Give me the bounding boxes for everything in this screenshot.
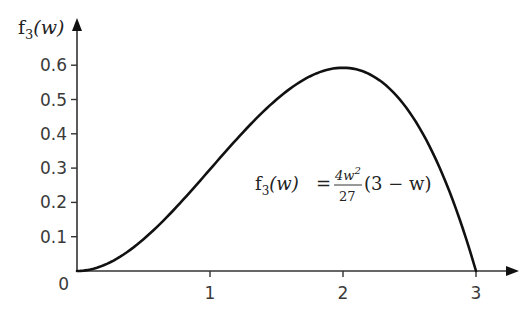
f3-curve — [77, 68, 476, 271]
x-axis-arrow-icon — [506, 266, 519, 276]
x-ticks: 123 — [205, 271, 482, 303]
y-tick-label: 0.4 — [40, 124, 67, 144]
y-ticks: 0.10.20.30.40.50.6 — [40, 55, 77, 247]
x-tick-label: 1 — [205, 283, 216, 303]
formula-annotation: f3(w) = 4w2 27 (3 − w) — [255, 165, 431, 204]
svg-text:=: = — [316, 173, 331, 194]
y-tick-label: 0.3 — [40, 158, 67, 178]
svg-text:27: 27 — [339, 189, 356, 204]
y-tick-label: 0.1 — [40, 227, 67, 247]
y-axis-title: f3(w) — [18, 16, 64, 42]
origin-label: 0 — [58, 274, 69, 294]
y-tick-label: 0.2 — [40, 192, 67, 212]
chart: 0.10.20.30.40.50.6 123 0 f3(w) f3(w) = 4… — [0, 0, 520, 325]
y-axis-arrow-icon — [72, 18, 82, 31]
y-tick-label: 0.5 — [40, 90, 67, 110]
svg-text:f3(w): f3(w) — [255, 173, 299, 198]
svg-text:(3 − w): (3 − w) — [364, 173, 431, 194]
x-tick-label: 3 — [471, 283, 482, 303]
y-tick-label: 0.6 — [40, 55, 67, 75]
svg-text:4w2: 4w2 — [334, 165, 361, 183]
x-tick-label: 2 — [338, 283, 349, 303]
